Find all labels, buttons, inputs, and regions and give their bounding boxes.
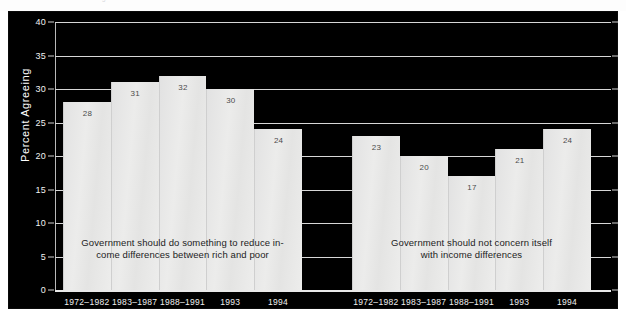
bar-value-label: 23	[353, 143, 400, 152]
bar-value-label: 21	[496, 156, 543, 165]
y-tick-mark-right-35	[612, 55, 618, 56]
y-tick-mark-5	[48, 256, 54, 257]
y-tick-mark-0	[48, 290, 54, 291]
y-tick-mark-right-5	[612, 256, 618, 257]
y-tick-label-10: 10	[35, 218, 46, 228]
y-tick-mark-40	[48, 22, 54, 23]
y-tick-mark-right-40	[612, 22, 618, 23]
y-tick-mark-right-30	[612, 89, 618, 90]
x-tick-label: 1994	[557, 297, 577, 307]
bar[interactable]: 21	[495, 149, 543, 290]
plot-area: 051015202530354028313230242320172124Gove…	[55, 22, 611, 290]
bar-group-1: 2831323024	[63, 22, 302, 290]
bar-group-2: 2320172124	[352, 22, 591, 290]
y-tick-mark-25	[48, 122, 54, 123]
y-tick-label-15: 15	[35, 185, 46, 195]
x-tick-label: 1988–1991	[160, 297, 205, 307]
bar[interactable]: 30	[206, 89, 254, 290]
bar[interactable]: 32	[159, 76, 207, 290]
bar[interactable]: 28	[63, 102, 111, 290]
x-tick-label: 1993	[509, 297, 529, 307]
y-tick-label-25: 25	[35, 118, 46, 128]
x-tick-label: 1988–1991	[449, 297, 494, 307]
bar[interactable]: 24	[254, 129, 302, 290]
bar-value-label: 24	[544, 136, 591, 145]
y-tick-mark-right-25	[612, 122, 618, 123]
chart-page: Figure 1 Attitudes toward income differe…	[0, 0, 626, 314]
x-axis-labels: 1972–19821983–19871988–1991199319941972–…	[55, 297, 611, 311]
x-tick-label: 1983–1987	[401, 297, 446, 307]
x-tick-label: 1972–1982	[353, 297, 398, 307]
bar-value-label: 17	[449, 183, 496, 192]
bar[interactable]: 23	[352, 136, 400, 290]
y-tick-label-30: 30	[35, 84, 46, 94]
y-tick-label-20: 20	[35, 151, 46, 161]
figure-panel: Percent Agreeing 05101520253035402831323…	[8, 11, 618, 309]
x-tick-label: 1972–1982	[64, 297, 109, 307]
bar[interactable]: 31	[111, 82, 159, 290]
bar-value-label: 30	[207, 96, 254, 105]
bar-value-label: 31	[112, 89, 159, 98]
bar[interactable]: 17	[448, 176, 496, 290]
x-tick-label: 1994	[268, 297, 288, 307]
y-tick-mark-35	[48, 55, 54, 56]
y-tick-mark-right-0	[612, 290, 618, 291]
y-tick-label-35: 35	[35, 51, 46, 61]
y-axis-title: Percent Agreeing	[19, 68, 31, 162]
bar-value-label: 28	[64, 109, 111, 118]
scan-top-strip: Figure 1 Attitudes toward income differe…	[0, 0, 626, 11]
y-tick-mark-right-10	[612, 223, 618, 224]
y-tick-mark-10	[48, 223, 54, 224]
y-tick-mark-20	[48, 156, 54, 157]
y-tick-label-0: 0	[41, 285, 46, 295]
y-tick-label-5: 5	[41, 252, 46, 262]
y-tick-mark-15	[48, 189, 54, 190]
y-tick-label-40: 40	[35, 17, 46, 27]
bar-value-label: 32	[160, 83, 207, 92]
y-tick-mark-right-15	[612, 189, 618, 190]
axis-baseline	[55, 290, 611, 292]
bar[interactable]: 24	[543, 129, 591, 290]
x-tick-label: 1993	[220, 297, 240, 307]
bar[interactable]: 20	[400, 156, 448, 290]
bar-value-label: 24	[255, 136, 302, 145]
x-tick-label: 1983–1987	[112, 297, 157, 307]
y-tick-mark-right-20	[612, 156, 618, 157]
y-tick-mark-30	[48, 89, 54, 90]
bar-value-label: 20	[401, 163, 448, 172]
ghost-caption: Figure 1 Attitudes toward income differe…	[95, 0, 251, 1]
